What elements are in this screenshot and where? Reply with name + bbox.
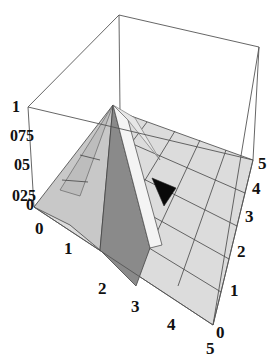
x-tick-1: 1 bbox=[64, 239, 73, 258]
y-tick-3: 3 bbox=[245, 207, 254, 226]
x-tick-5: 5 bbox=[206, 339, 215, 358]
y-tick-4: 4 bbox=[252, 179, 261, 198]
z-axis-ticks: 1 075 05 025 0 bbox=[10, 98, 36, 213]
x-tick-3: 3 bbox=[131, 297, 140, 316]
y-tick-0: 0 bbox=[216, 323, 225, 342]
z-tick-1: 1 bbox=[12, 98, 20, 115]
z-tick-05: 05 bbox=[14, 156, 30, 173]
y-tick-1: 1 bbox=[230, 281, 239, 300]
y-tick-2: 2 bbox=[237, 242, 246, 261]
surface-plot-3d: 1 075 05 025 0 0 1 2 3 4 5 0 1 2 3 4 5 bbox=[0, 0, 272, 360]
x-tick-0: 0 bbox=[35, 219, 44, 238]
x-tick-4: 4 bbox=[167, 315, 176, 334]
z-tick-0: 0 bbox=[26, 196, 34, 213]
x-tick-2: 2 bbox=[98, 279, 107, 298]
y-tick-5: 5 bbox=[258, 154, 267, 173]
z-tick-075: 075 bbox=[10, 127, 34, 144]
